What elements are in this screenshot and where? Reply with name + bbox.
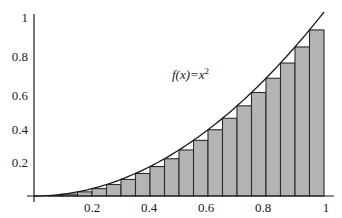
x-tick-label: 0.8 [255, 200, 271, 215]
bar [78, 192, 93, 196]
function-label-text: f(x)=x [172, 67, 205, 82]
bar [252, 93, 267, 197]
x-tick-label: 0.4 [141, 200, 158, 215]
bar [194, 140, 209, 196]
x-tick-label: 0.6 [198, 200, 215, 215]
bar [121, 179, 136, 196]
bar [107, 185, 122, 197]
y-tick-label: 1 [22, 10, 29, 25]
bar [295, 47, 310, 196]
y-tick-label: 0.8 [12, 49, 28, 64]
bar [223, 118, 238, 196]
bar [136, 173, 151, 196]
x-tick-label: 0.2 [84, 200, 100, 215]
y-tick-label: 0.2 [12, 155, 28, 170]
x-tick-labels: 0.20.40.60.81 [84, 200, 329, 215]
bar [179, 150, 194, 196]
function-label-exponent: 2 [205, 66, 210, 76]
x-tick-label: 1 [323, 200, 330, 215]
bars-group [49, 30, 325, 196]
y-tick-labels: 0.20.40.60.81 [12, 10, 29, 170]
bar [150, 167, 165, 196]
bar [310, 30, 325, 196]
bar [266, 78, 281, 196]
riemann-sum-chart: 0.20.40.60.81 0.20.40.60.81 f(x)=x2 [0, 0, 342, 218]
bar [92, 189, 107, 196]
bar [281, 63, 296, 196]
bar [165, 159, 180, 196]
y-tick-label: 0.6 [12, 88, 29, 103]
function-label: f(x)=x2 [172, 66, 209, 82]
bar [208, 130, 223, 196]
bar [237, 106, 252, 196]
y-tick-label: 0.4 [12, 122, 29, 137]
